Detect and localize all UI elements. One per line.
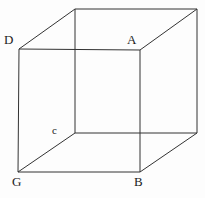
vertex-label-c: c bbox=[52, 125, 57, 136]
edge-connect-bottom-left bbox=[18, 133, 75, 172]
edge-connect-bottom-right bbox=[140, 133, 197, 172]
vertex-label-a: A bbox=[127, 33, 136, 46]
cube-diagram-canvas: D A c G B bbox=[0, 0, 205, 198]
vertex-label-d: D bbox=[4, 33, 13, 46]
vertex-label-b: B bbox=[134, 175, 143, 188]
edge-connect-top-left bbox=[19, 9, 75, 49]
cube-wireframe-svg bbox=[0, 0, 205, 198]
edge-connect-top-right bbox=[140, 9, 197, 50]
edge-front-top bbox=[19, 49, 140, 50]
vertex-label-g: G bbox=[12, 175, 21, 188]
edge-front-left bbox=[18, 49, 19, 172]
